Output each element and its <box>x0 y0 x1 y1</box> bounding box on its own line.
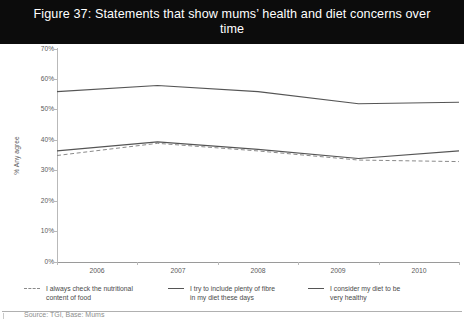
legend-item-label: I always check the nutritional content o… <box>46 284 133 303</box>
dashed-line-swatch <box>24 288 40 291</box>
plot-lines <box>0 44 464 280</box>
solid-line-swatch <box>308 288 324 291</box>
legend-item[interactable]: I consider my diet to be very healthy <box>308 284 458 308</box>
legend-item[interactable]: I always check the nutritional content o… <box>24 284 164 308</box>
figure-title: Figure 37: Statements that show mums’ he… <box>34 7 431 38</box>
footer-area: Source: TGI, Base: Mums <box>0 312 464 321</box>
series-line <box>57 86 459 104</box>
series-line <box>57 143 459 161</box>
figure-container: Figure 37: Statements that show mums’ he… <box>0 0 464 321</box>
legend-item-label: I consider my diet to be very healthy <box>330 284 400 303</box>
figure-title-line-2: time <box>220 22 244 36</box>
figure-title-bar: Figure 37: Statements that show mums’ he… <box>0 0 464 44</box>
chart-legend: I always check the nutritional content o… <box>0 284 464 310</box>
legend-item-label: I try to include plenty of fibre in my d… <box>190 284 275 303</box>
series-line <box>57 142 459 159</box>
source-note: Source: TGI, Base: Mums <box>24 312 104 318</box>
solid-line-swatch <box>168 288 184 291</box>
figure-title-line-1: Figure 37: Statements that show mums’ he… <box>34 7 431 21</box>
chart-area: % Any agree 0% 10% 20% 30% 40% 50% 60% 7… <box>0 44 464 280</box>
legend-item[interactable]: I try to include plenty of fibre in my d… <box>168 284 308 308</box>
